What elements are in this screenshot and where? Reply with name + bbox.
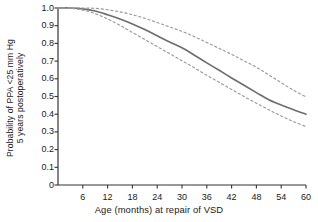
x-tick-label: 12 <box>103 193 113 202</box>
y-axis-label-line1: Probability of PPA <25 mm Hg <box>5 39 15 157</box>
y-tick-label: 0.4 <box>41 110 54 119</box>
y-tick-label: 1.0 <box>41 4 54 13</box>
x-tick-label: 30 <box>177 193 187 202</box>
y-axis-label-line2: 5 years postoperatively <box>15 39 25 157</box>
x-axis-label: Age (months) at repair of VSD <box>0 204 318 215</box>
y-tick-labels: 00.10.20.30.40.50.60.70.80.91.0 <box>26 0 54 196</box>
x-tick-label: 48 <box>251 193 261 202</box>
y-tick-label: 0.6 <box>41 74 54 83</box>
chart-figure: Probability of PPA <25 mm Hg 5 years pos… <box>0 0 318 222</box>
y-tick-label: 0.3 <box>41 127 54 136</box>
y-tick-label: 0.1 <box>41 163 54 172</box>
y-tick-label: 0.7 <box>41 57 54 66</box>
curve-dashed <box>58 8 306 97</box>
y-tick-label: 0.9 <box>41 21 54 30</box>
axis-lines <box>58 8 306 185</box>
y-tick-label: 0.8 <box>41 39 54 48</box>
x-tick-label: 18 <box>127 193 137 202</box>
x-tick-label: 6 <box>80 193 85 202</box>
y-tick-label: 0.5 <box>41 92 54 101</box>
y-tick-label: 0.2 <box>41 145 54 154</box>
x-tick-label: 54 <box>276 193 286 202</box>
x-tick-label: 42 <box>227 193 237 202</box>
x-tick-labels: 6121824303642485460 <box>0 188 318 202</box>
x-tick-label: 36 <box>202 193 212 202</box>
curve-dashed <box>58 8 306 127</box>
data-curves <box>58 8 306 127</box>
x-tick-label: 60 <box>301 193 311 202</box>
x-tick-label: 24 <box>152 193 162 202</box>
